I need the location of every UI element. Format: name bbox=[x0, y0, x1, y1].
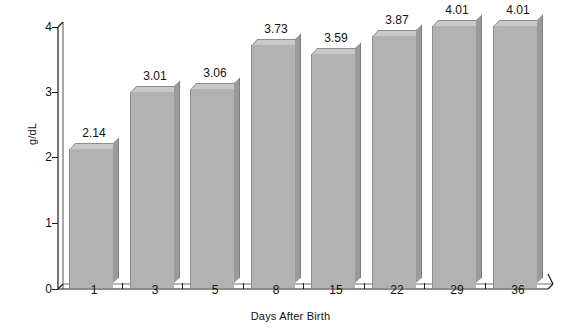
bar-front-face bbox=[432, 26, 476, 289]
bar-side-face bbox=[476, 15, 482, 283]
x-tick-label: 22 bbox=[377, 283, 417, 297]
bar-value-label: 3.59 bbox=[301, 31, 371, 45]
bar bbox=[311, 48, 361, 289]
bar bbox=[432, 20, 482, 289]
x-tick-label: 15 bbox=[316, 283, 356, 297]
x-tick-label: 36 bbox=[498, 283, 538, 297]
y-tick-mark bbox=[52, 27, 58, 28]
x-tick-label: 1 bbox=[74, 283, 114, 297]
bar-front-face bbox=[311, 54, 355, 289]
y-tick-label: 4 bbox=[30, 21, 52, 33]
bar-value-label: 3.06 bbox=[180, 66, 250, 80]
x-axis-title: Days After Birth bbox=[0, 310, 581, 322]
bar bbox=[251, 39, 301, 289]
x-tick-mark bbox=[485, 283, 486, 289]
bar-front-face bbox=[251, 45, 295, 289]
bar-side-face bbox=[355, 43, 361, 283]
bar bbox=[130, 86, 180, 289]
bar-side-face bbox=[234, 78, 240, 283]
bar bbox=[372, 30, 422, 289]
bar-front-face bbox=[493, 26, 537, 289]
bar-front-face bbox=[372, 36, 416, 289]
bar-side-face bbox=[174, 81, 180, 283]
bar bbox=[493, 20, 543, 289]
bar-chart: g/dL 0 1 2 3 4 2.143.013.063.733.593.874… bbox=[0, 0, 581, 332]
bar-front-face bbox=[130, 92, 174, 289]
y-tick-mark bbox=[52, 92, 58, 93]
bar-value-label: 4.01 bbox=[422, 3, 492, 17]
x-tick-mark bbox=[243, 283, 244, 289]
bar-front-face bbox=[69, 149, 113, 289]
x-tick-mark bbox=[303, 283, 304, 289]
bar-side-face bbox=[537, 15, 543, 283]
bar-side-face bbox=[416, 25, 422, 283]
y-tick-mark bbox=[52, 157, 58, 158]
x-tick-mark bbox=[122, 283, 123, 289]
y-tick-mark bbox=[52, 289, 58, 290]
y-tick-label: 2 bbox=[30, 151, 52, 163]
x-tick-label: 5 bbox=[195, 283, 235, 297]
y-tick-mark bbox=[52, 223, 58, 224]
y-tick-label: 0 bbox=[30, 283, 52, 295]
bar-value-label: 4.01 bbox=[483, 3, 553, 17]
x-tick-label: 3 bbox=[135, 283, 175, 297]
x-tick-mark bbox=[424, 283, 425, 289]
y-tick-label: 3 bbox=[30, 86, 52, 98]
bar-side-face bbox=[295, 34, 301, 283]
y-tick-label: 1 bbox=[30, 217, 52, 229]
x-tick-label: 29 bbox=[437, 283, 477, 297]
bar-side-face bbox=[113, 138, 119, 283]
x-tick-mark bbox=[364, 283, 365, 289]
x-tick-label: 8 bbox=[256, 283, 296, 297]
bar bbox=[69, 143, 119, 289]
bar-front-face bbox=[190, 89, 234, 289]
x-tick-mark bbox=[182, 283, 183, 289]
bar-value-label: 2.14 bbox=[59, 126, 129, 140]
bar bbox=[190, 83, 240, 289]
